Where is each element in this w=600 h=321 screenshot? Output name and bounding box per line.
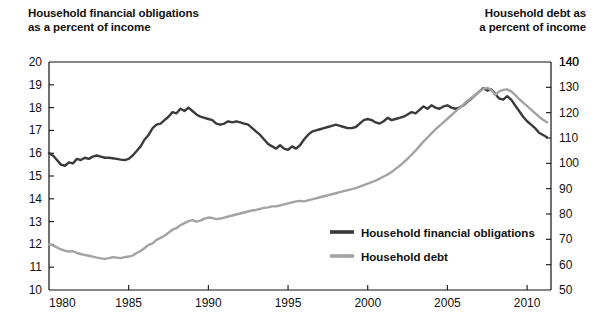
left-tick-label: 12 bbox=[29, 237, 43, 251]
x-tick-label: 2010 bbox=[514, 296, 541, 310]
x-tick-label: 1980 bbox=[49, 296, 76, 310]
left-tick-label: 10 bbox=[29, 283, 43, 297]
legend-label: Household financial obligations bbox=[361, 227, 535, 239]
right-tick-label: 90 bbox=[559, 182, 573, 196]
x-tick-label: 1990 bbox=[195, 296, 222, 310]
x-tick-label: 2005 bbox=[434, 296, 461, 310]
left-tick-label: 13 bbox=[29, 215, 43, 229]
x-tick-label: 2000 bbox=[354, 296, 381, 310]
right-tick-label: 50 bbox=[559, 283, 573, 297]
legend-label: Household debt bbox=[361, 251, 448, 263]
right-tick-label: 70 bbox=[559, 232, 573, 246]
right-tick-label: 120 bbox=[559, 106, 579, 120]
chart-container: Household financial obligations as a per… bbox=[0, 0, 600, 321]
right-tick-label: 130 bbox=[559, 80, 579, 94]
right-tick-label: 80 bbox=[559, 207, 573, 221]
left-tick-label: 15 bbox=[29, 169, 43, 183]
left-tick-label: 19 bbox=[29, 78, 43, 92]
x-tick-label: 1995 bbox=[275, 296, 302, 310]
x-tick-label: 1985 bbox=[115, 296, 142, 310]
left-tick-label: 16 bbox=[29, 146, 43, 160]
right-axis-tick-labels: 5060708090100110120130140140 bbox=[559, 55, 579, 297]
chart-legend: Household financial obligationsHousehold… bbox=[330, 227, 535, 263]
right-tick-label: 110 bbox=[559, 131, 578, 145]
right-tick-label: 100 bbox=[559, 156, 579, 170]
left-tick-label: 11 bbox=[30, 260, 43, 274]
series-line-household-financial-obligations bbox=[49, 88, 547, 166]
x-axis-tick-labels: 1980198519901995200020052010 bbox=[49, 296, 541, 310]
right-tick-label: 140 bbox=[559, 55, 579, 69]
left-tick-label: 17 bbox=[29, 123, 43, 137]
left-tick-label: 18 bbox=[29, 101, 43, 115]
chart-plot: 1011121314151617181920 50607080901001101… bbox=[0, 0, 600, 321]
left-axis-tick-labels: 1011121314151617181920 bbox=[29, 55, 43, 297]
left-tick-label: 20 bbox=[29, 55, 43, 69]
right-tick-label: 60 bbox=[559, 258, 573, 272]
left-tick-label: 14 bbox=[29, 192, 43, 206]
axis-tick-marks bbox=[49, 85, 551, 290]
